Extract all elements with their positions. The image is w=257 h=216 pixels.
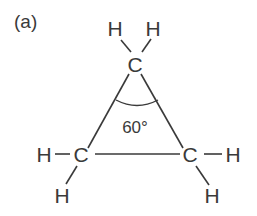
bond-c1-h1 — [121, 40, 131, 52]
bond-c3-h6 — [196, 166, 209, 185]
angle-label: 60° — [122, 118, 148, 137]
atom-h5: H — [225, 143, 240, 166]
atom-h1: H — [107, 17, 122, 40]
atom-h6: H — [204, 184, 219, 207]
bond-c2-h4 — [66, 166, 77, 184]
atom-c2: C — [73, 143, 88, 166]
cyclopropane-diagram: (a) 60° C C C H H H H H H — [0, 0, 257, 216]
atom-h4: H — [54, 184, 69, 207]
angle-arc — [116, 100, 158, 106]
bond-c1-h2 — [142, 39, 151, 52]
structure-svg: (a) 60° C C C H H H H H H — [0, 0, 257, 216]
panel-label: (a) — [14, 11, 37, 32]
atom-c1: C — [127, 53, 142, 76]
atom-c3: C — [182, 143, 197, 166]
atom-h3: H — [36, 143, 51, 166]
atom-h2: H — [145, 17, 160, 40]
